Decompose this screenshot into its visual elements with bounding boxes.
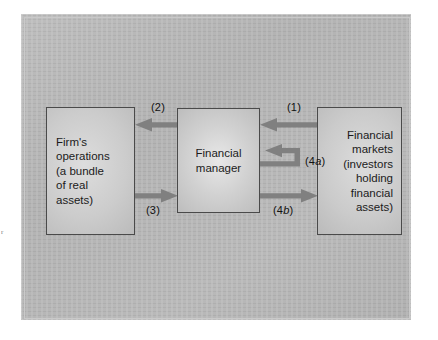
arrow-flow-1 (260, 118, 318, 132)
node-financial-manager[interactable]: Financial manager (177, 108, 260, 213)
flow-label-3: (3) (146, 204, 160, 216)
node-firm-line-4: of real (56, 178, 110, 193)
node-firm-operations[interactable]: Firm's operations (a bundle of real asse… (46, 107, 135, 235)
node-manager-line-1: Financial (195, 146, 241, 161)
arrow-flow-4a (260, 144, 306, 177)
node-firm-line-5: assets) (56, 193, 110, 208)
flow-label-4a-prefix: (4 (305, 155, 315, 167)
node-firm-line-2: operations (56, 149, 110, 164)
margin-caption-fragment: r (1, 228, 19, 236)
node-markets-line-6: assets) (343, 200, 393, 215)
figure-page: Firm's operations (a bundle of real asse… (0, 0, 438, 340)
flow-label-4b-suffix: ) (290, 204, 294, 216)
node-markets-line-5: financial (343, 186, 393, 201)
flow-label-4b-prefix: (4 (273, 204, 283, 216)
node-manager-line-2: manager (195, 161, 241, 176)
flow-label-4b: (4b) (273, 204, 293, 216)
flow-label-4a: (4a) (305, 155, 325, 167)
node-firm-line-1: Firm's (56, 135, 110, 150)
flow-label-1: (1) (287, 101, 301, 113)
node-markets-line-1: Financial (343, 128, 393, 143)
flow-label-4a-suffix: ) (322, 155, 326, 167)
node-markets-line-3: (investors (343, 157, 393, 172)
node-markets-line-2: markets (343, 142, 393, 157)
arrow-flow-3 (135, 189, 178, 203)
arrow-flow-2 (135, 118, 178, 132)
node-financial-markets[interactable]: Financial markets (investors holding fin… (317, 107, 402, 235)
flow-label-2: (2) (151, 101, 165, 113)
node-markets-line-4: holding (343, 171, 393, 186)
arrow-flow-4b (260, 189, 318, 203)
node-firm-line-3: (a bundle (56, 164, 110, 179)
